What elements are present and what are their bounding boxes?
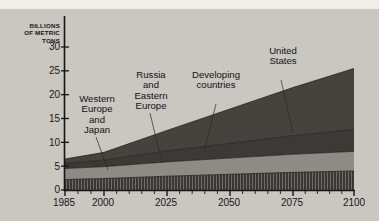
x-tick-label-2075: 2075 — [272, 198, 312, 208]
y-tick-label-5: 5 — [34, 162, 60, 172]
x-axis-ticks — [65, 191, 354, 197]
x-tick-label-2025: 2025 — [146, 198, 186, 208]
x-tick-label-1985: 1985 — [44, 198, 84, 208]
x-tick-label-2000: 2000 — [83, 198, 123, 208]
y-tick-label-15: 15 — [34, 114, 60, 124]
series-label-united-states: United States — [258, 46, 308, 67]
series-label-developing-countries: Developing countries — [181, 70, 251, 91]
y-tick-label-20: 20 — [34, 90, 60, 100]
series-label-russia-eastern-europe: Russia and Eastern Europe — [126, 70, 176, 112]
y-tick-label-25: 25 — [34, 66, 60, 76]
y-tick-label-0: 0 — [34, 185, 60, 195]
x-tick-label-2050: 2050 — [209, 198, 249, 208]
series-label-western-europe-japan: Western Europe and Japan — [72, 94, 122, 136]
y-tick-label-30: 30 — [34, 42, 60, 52]
x-tick-label-2100: 2100 — [334, 198, 374, 208]
chart-figure: BILLIONS OF METRIC TONS 30 25 20 15 10 5… — [0, 0, 379, 221]
y-tick-label-10: 10 — [34, 138, 60, 148]
